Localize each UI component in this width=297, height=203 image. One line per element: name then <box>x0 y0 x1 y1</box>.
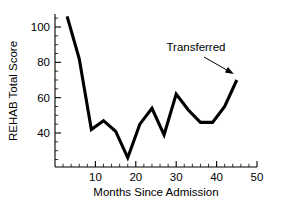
x-axis-tick-labels: 1020304050 <box>89 171 263 183</box>
annotation-label: Transferred <box>166 41 225 53</box>
chart-figure: 406080100 1020304050 Months Since Admiss… <box>0 0 297 203</box>
y-axis: 406080100 <box>31 14 61 167</box>
y-tick-label: 60 <box>37 92 50 104</box>
x-axis-title: Months Since Admission <box>93 186 218 198</box>
annotation-arrow-head <box>225 67 234 74</box>
x-tick-label: 30 <box>170 171 183 183</box>
x-tick-label: 10 <box>89 171 102 183</box>
y-tick-label: 100 <box>31 21 50 33</box>
transferred-annotation: Transferred <box>166 41 233 74</box>
y-axis-title: REHAB Total Score <box>7 41 19 141</box>
annotation-arrow-shaft <box>204 57 230 72</box>
y-axis-tick-labels: 406080100 <box>31 21 50 139</box>
y-tick-label: 80 <box>37 56 50 68</box>
x-tick-label: 50 <box>251 171 264 183</box>
x-axis: 1020304050 <box>55 161 263 183</box>
data-series-line <box>67 16 237 157</box>
line-chart: 406080100 1020304050 Months Since Admiss… <box>0 0 297 203</box>
x-tick-label: 40 <box>210 171 223 183</box>
x-tick-label: 20 <box>129 171 142 183</box>
y-tick-label: 40 <box>37 127 50 139</box>
